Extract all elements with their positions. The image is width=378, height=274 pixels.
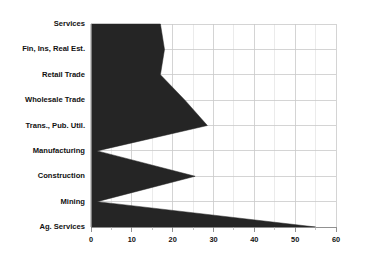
chart-background xyxy=(0,0,378,274)
y-axis-label-retail-trade: Retail Trade xyxy=(42,70,85,79)
x-tick-label-30: 30 xyxy=(209,235,217,244)
x-tick-label-40: 40 xyxy=(250,235,258,244)
y-axis-label-fin-ins-real-est: Fin, Ins, Real Est. xyxy=(22,44,85,53)
x-tick-label-10: 10 xyxy=(128,235,136,244)
x-tick-label-60: 60 xyxy=(332,235,340,244)
x-tick-label-20: 20 xyxy=(169,235,177,244)
y-axis-label-ag-services: Ag. Services xyxy=(39,222,85,231)
horizontal-area-chart: 0102030405060 ServicesFin, Ins, Real Est… xyxy=(0,0,378,274)
y-axis-label-services: Services xyxy=(54,19,85,28)
x-tick-label-0: 0 xyxy=(89,235,93,244)
y-axis-label-construction: Construction xyxy=(38,171,86,180)
y-axis-label-wholesale-trade: Wholesale Trade xyxy=(25,95,85,104)
y-axis-label-trans-pub-util: Trans., Pub. Util. xyxy=(26,121,86,130)
y-axis-label-manufacturing: Manufacturing xyxy=(33,146,86,155)
x-tick-label-50: 50 xyxy=(291,235,299,244)
y-axis-label-mining: Mining xyxy=(61,197,86,206)
chart-container: 0102030405060 ServicesFin, Ins, Real Est… xyxy=(0,0,378,274)
